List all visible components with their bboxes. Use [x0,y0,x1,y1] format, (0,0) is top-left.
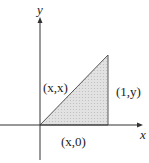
diagram-canvas: y x (x,x) (1,y) (x,0) [0,0,149,163]
label-base-point: (x,0) [61,134,86,149]
label-right-edge-point: (1,y) [116,84,141,99]
y-axis-arrow-icon [38,17,43,23]
x-axis-label: x [139,127,146,142]
label-hypotenuse-point: (x,x) [43,80,68,95]
y-axis-label: y [35,2,43,17]
